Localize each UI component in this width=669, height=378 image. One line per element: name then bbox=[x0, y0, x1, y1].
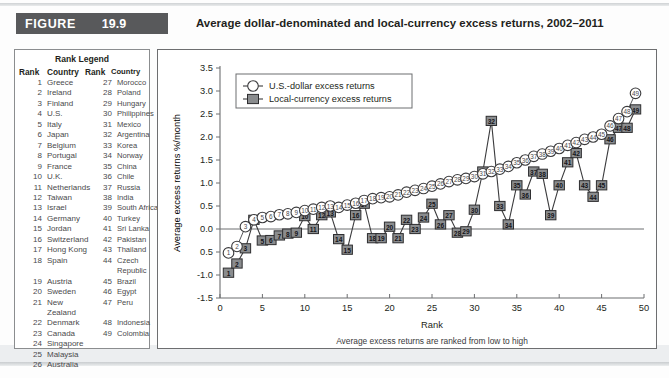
x-tick-label: 10 bbox=[300, 303, 310, 313]
marker-square-label: 32 bbox=[488, 118, 496, 125]
x-tick-label: 0 bbox=[217, 303, 222, 313]
marker-square-label: 45 bbox=[598, 182, 606, 189]
local-currency-point: 26 bbox=[435, 220, 445, 229]
local-currency-point: 2 bbox=[232, 259, 242, 268]
local-currency-point: 36 bbox=[520, 190, 530, 199]
country-right: Pakistan bbox=[117, 235, 159, 245]
marker-square-label: 8 bbox=[286, 231, 290, 238]
rank-legend-header: Rank Country Rank Country bbox=[15, 67, 149, 77]
rank-left: 11 bbox=[19, 183, 47, 193]
rank-legend-row: 10U.K.36Chile bbox=[19, 172, 145, 182]
page-rule-top bbox=[0, 3, 669, 6]
local-currency-point: 1 bbox=[223, 268, 233, 277]
local-currency-point: 44 bbox=[588, 192, 598, 201]
legend-local-label: Local-currency excess returns bbox=[269, 94, 392, 104]
chart-panel: 3.53.02.52.01.51.00.50.00.5-1.0-1.505101… bbox=[157, 49, 657, 349]
marker-square-label: 24 bbox=[420, 215, 428, 222]
country-right: Mexico bbox=[117, 120, 159, 130]
country-right: Indonesia bbox=[117, 318, 159, 328]
y-tick-label: -1.0 bbox=[197, 270, 213, 280]
marker-square-label: 46 bbox=[606, 136, 614, 143]
country-right: China bbox=[117, 162, 159, 172]
plot-area: 3.53.02.52.01.51.00.50.00.5-1.0-1.505101… bbox=[158, 50, 656, 348]
rank-legend-row: 11Netherlands37Russia bbox=[19, 183, 145, 193]
rank-right: 28 bbox=[90, 88, 117, 98]
rank-left: 25 bbox=[19, 350, 47, 360]
rank-right: 37 bbox=[90, 183, 117, 193]
marker-circle-label: 3 bbox=[244, 223, 248, 230]
marker-circle-label: 2 bbox=[235, 243, 239, 250]
country-right: Argentina bbox=[117, 130, 159, 140]
rank-legend-row: 9France35China bbox=[19, 162, 145, 172]
local-currency-point: 9 bbox=[291, 228, 301, 237]
rank-left: 15 bbox=[19, 224, 47, 234]
usd-point: 49 bbox=[630, 88, 641, 99]
local-currency-point: 29 bbox=[461, 227, 471, 236]
country-left: Greece bbox=[47, 78, 90, 88]
marker-circle-label: 48 bbox=[623, 108, 631, 115]
country-left: Hong Kong bbox=[47, 245, 90, 255]
country-right: Peru bbox=[117, 298, 159, 319]
header-rank-2: Rank bbox=[85, 67, 111, 77]
marker-square-label: 22 bbox=[403, 217, 411, 224]
y-tick-label: 0.5 bbox=[200, 247, 213, 257]
rank-legend-row: 15Jordan41Sri Lanka bbox=[19, 224, 145, 234]
marker-circle-label: 45 bbox=[598, 131, 606, 138]
x-tick-label: 25 bbox=[427, 303, 437, 313]
country-right: Brazil bbox=[117, 277, 159, 287]
country-right: Czech Republic bbox=[117, 256, 159, 277]
marker-square-label: 35 bbox=[513, 182, 521, 189]
local-currency-point: 40 bbox=[554, 181, 564, 190]
country-right: Thailand bbox=[117, 245, 159, 255]
rank-right: 34 bbox=[90, 151, 117, 161]
rank-right: 27 bbox=[90, 78, 117, 88]
local-currency-point: 21 bbox=[393, 234, 403, 243]
country-left: Denmark bbox=[47, 318, 90, 328]
local-currency-point: 20 bbox=[384, 222, 394, 231]
rank-right: 33 bbox=[90, 141, 117, 151]
marker-square-label: 34 bbox=[505, 222, 513, 229]
x-tick-label: 5 bbox=[260, 303, 265, 313]
marker-square-label: 5 bbox=[261, 238, 265, 245]
excess-returns-chart: 3.53.02.52.01.51.00.50.00.5-1.0-1.505101… bbox=[158, 50, 656, 348]
x-tick-label: 45 bbox=[596, 303, 606, 313]
rank-legend-row: 3Finland29Hungary bbox=[19, 99, 145, 109]
rank-legend-row: 21New Zealand47Peru bbox=[19, 298, 145, 319]
x-tick-label: 40 bbox=[554, 303, 564, 313]
country-left: Belgium bbox=[47, 141, 90, 151]
marker-square-label: 25 bbox=[428, 201, 436, 208]
y-tick-label: 0.5 bbox=[200, 201, 213, 211]
marker-square-label: 2 bbox=[235, 261, 239, 268]
country-right bbox=[117, 360, 159, 370]
country-left: Taiwan bbox=[47, 193, 90, 203]
rank-right: 32 bbox=[90, 130, 117, 140]
local-currency-point: 45 bbox=[596, 181, 606, 190]
rank-right: 30 bbox=[90, 109, 117, 119]
local-currency-point: 25 bbox=[427, 199, 437, 208]
x-tick-label: 35 bbox=[512, 303, 522, 313]
rank-legend-row: 12Taiwan38India bbox=[19, 193, 145, 203]
country-right: Russia bbox=[117, 183, 159, 193]
country-left: New Zealand bbox=[47, 298, 90, 319]
rank-right: 35 bbox=[90, 162, 117, 172]
country-left: Finland bbox=[47, 99, 90, 109]
marker-square-label: 6 bbox=[269, 237, 273, 244]
marker-circle-label: 9 bbox=[295, 209, 299, 216]
rank-legend-row: 17Hong Kong43Thailand bbox=[19, 245, 145, 255]
country-right: South Africa bbox=[117, 203, 159, 213]
usd-point: 45 bbox=[596, 129, 607, 140]
figure-page: FIGURE 19.9 Average dollar-denominated a… bbox=[0, 0, 669, 378]
marker-square-label: 21 bbox=[394, 235, 402, 242]
rank-left: 8 bbox=[19, 151, 47, 161]
rank-left: 17 bbox=[19, 245, 47, 255]
y-tick-label: 1.5 bbox=[200, 155, 213, 165]
rank-right: 49 bbox=[90, 329, 117, 339]
local-currency-point: 43 bbox=[579, 181, 589, 190]
y-tick-label: 1.0 bbox=[200, 178, 213, 188]
rank-left: 26 bbox=[19, 360, 47, 370]
marker-square-label: 27 bbox=[445, 212, 453, 219]
rank-left: 24 bbox=[19, 339, 47, 349]
rank-left: 18 bbox=[19, 256, 47, 277]
rank-legend-row: 19Austria45Brazil bbox=[19, 277, 145, 287]
country-left: Italy bbox=[47, 120, 90, 130]
